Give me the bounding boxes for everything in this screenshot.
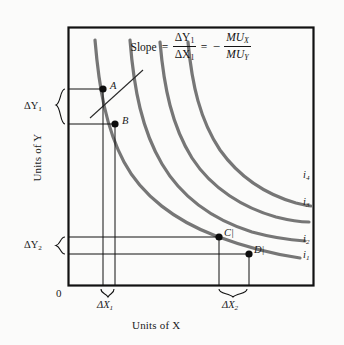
formula-equals-2: = xyxy=(201,41,208,53)
formula-mu-y: MUY xyxy=(224,47,250,62)
curve-label-i2: i2 xyxy=(303,234,309,246)
formula-slope-word: Slope xyxy=(131,41,157,53)
point-marker-a xyxy=(99,85,106,92)
curve-i1 xyxy=(95,40,300,258)
point-marker-c xyxy=(215,233,222,240)
bracket-delta-y2 xyxy=(56,237,65,254)
bracket-delta-x2 xyxy=(219,289,247,297)
point-label-d: D| xyxy=(254,245,264,256)
bracket-label-delta-x2: ΔX2 xyxy=(222,300,238,312)
formula-mu-x: MUX xyxy=(224,31,251,47)
formula-fraction-delta: ΔY1 ΔX1 xyxy=(173,31,197,62)
curve-i3 xyxy=(160,42,309,222)
point-label-c: C| xyxy=(224,228,234,239)
curve-label-i3: i3 xyxy=(303,197,309,209)
slope-formula: Slope = ΔY1 ΔX1 = − MUX MUY xyxy=(128,31,253,62)
bracket-delta-y1 xyxy=(56,89,65,124)
point-marker-d xyxy=(245,250,252,257)
formula-fraction-mu: MUX MUY xyxy=(224,31,251,62)
formula-delta-y1: ΔY1 xyxy=(173,31,197,47)
bracket-label-delta-y1: ΔY1 xyxy=(24,101,42,113)
origin-label: 0 xyxy=(56,288,62,299)
curve-label-i4: i4 xyxy=(303,170,309,182)
curve-i2 xyxy=(130,40,305,241)
y-axis-title: Units of Y xyxy=(32,113,43,203)
bracket-delta-x1 xyxy=(101,289,114,297)
indifference-curve-figure: Slope = ΔY1 ΔX1 = − MUX MUY A B C| D| i1… xyxy=(0,0,344,345)
formula-delta-x1: ΔX1 xyxy=(173,47,197,62)
curve-i4 xyxy=(188,42,311,206)
curve-label-i1: i1 xyxy=(303,250,309,262)
formula-minus-sign: − xyxy=(213,39,220,55)
x-axis-title: Units of X xyxy=(132,320,180,331)
point-label-a: A xyxy=(110,81,116,92)
formula-equals-1: = xyxy=(162,41,169,53)
bracket-label-delta-x1: ΔX1 xyxy=(97,300,113,312)
point-label-b: B xyxy=(122,116,128,127)
bracket-label-delta-y2: ΔY2 xyxy=(24,240,42,252)
point-marker-b xyxy=(111,120,118,127)
